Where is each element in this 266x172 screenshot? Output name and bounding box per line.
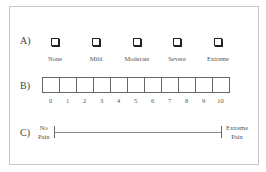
checkbox-icon[interactable]	[133, 38, 141, 46]
option-label: Severe	[157, 55, 197, 62]
rating-box-8[interactable]	[178, 77, 196, 93]
option-extreme[interactable]: Extreme	[198, 32, 238, 62]
vas-right-tick	[221, 126, 222, 138]
rating-box-4[interactable]	[110, 77, 128, 93]
rating-box-10[interactable]	[212, 77, 230, 93]
rating-box-3[interactable]	[93, 77, 111, 93]
extreme-pain-anchor: Extreme Pain	[226, 123, 248, 141]
number-label: 0	[42, 97, 59, 104]
anchor-text: Pain	[231, 133, 243, 140]
rating-box-9[interactable]	[195, 77, 213, 93]
anchor-text: No	[40, 124, 48, 131]
section-a-label: A)	[20, 35, 31, 46]
option-label: Moderate	[117, 55, 157, 62]
rating-box-5[interactable]	[127, 77, 145, 93]
no-pain-anchor: No Pain	[38, 123, 50, 141]
rating-box-0[interactable]	[42, 77, 60, 93]
number-label: 4	[110, 97, 127, 104]
number-label: 9	[195, 97, 212, 104]
number-label: 1	[59, 97, 76, 104]
option-label: Mild	[76, 55, 116, 62]
checkbox-icon[interactable]	[92, 38, 100, 46]
section-c-label: C)	[20, 127, 30, 138]
number-label: 8	[178, 97, 195, 104]
option-mild[interactable]: Mild	[76, 32, 116, 62]
number-label: 10	[212, 97, 229, 104]
anchor-text: Pain	[38, 133, 50, 140]
rating-box-2[interactable]	[76, 77, 94, 93]
checkbox-icon[interactable]	[51, 38, 59, 46]
numeric-labels: 0 1 2 3 4 5 6 7 8 9 10	[42, 97, 229, 104]
visual-analog-line[interactable]	[54, 132, 222, 133]
number-label: 6	[144, 97, 161, 104]
number-label: 5	[127, 97, 144, 104]
option-label: Extreme	[198, 55, 238, 62]
checkbox-icon[interactable]	[173, 38, 181, 46]
number-label: 7	[161, 97, 178, 104]
numeric-rating-grid	[42, 77, 230, 93]
rating-box-6[interactable]	[144, 77, 162, 93]
anchor-text: Extreme	[226, 124, 248, 131]
option-severe[interactable]: Severe	[157, 32, 197, 62]
checkbox-icon[interactable]	[214, 38, 222, 46]
option-none[interactable]: None	[35, 32, 75, 62]
rating-box-1[interactable]	[59, 77, 77, 93]
rating-box-7[interactable]	[161, 77, 179, 93]
number-label: 3	[93, 97, 110, 104]
option-moderate[interactable]: Moderate	[117, 32, 157, 62]
section-b-label: B)	[20, 80, 30, 91]
number-label: 2	[76, 97, 93, 104]
option-label: None	[35, 55, 75, 62]
